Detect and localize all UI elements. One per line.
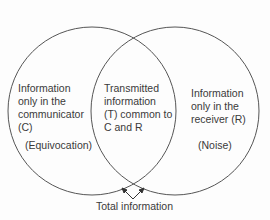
total-information-arrows	[122, 188, 144, 199]
communicator-only-label: Information only in the communicator (C)	[18, 82, 84, 134]
receiver-only-label: Information only in the receiver (R)	[191, 87, 246, 126]
center-line-3: (T) common to	[104, 108, 172, 121]
venn-diagram: Information only in the communicator (C)…	[0, 0, 270, 220]
equivocation-label: (Equivocation)	[25, 139, 92, 152]
left-line-4: (C)	[18, 121, 84, 134]
right-line-3: receiver (R)	[191, 113, 246, 126]
center-line-4: C and R	[104, 121, 172, 134]
left-line-3: communicator	[18, 108, 84, 121]
left-line-1: Information	[18, 82, 84, 95]
center-line-2: information	[104, 95, 172, 108]
noise-label: (Noise)	[198, 139, 232, 152]
right-line-1: Information	[191, 87, 246, 100]
left-line-2: only in the	[18, 95, 84, 108]
right-line-2: only in the	[191, 100, 246, 113]
transmitted-information-label: Transmitted information (T) common to C …	[104, 82, 172, 134]
center-line-1: Transmitted	[104, 82, 172, 95]
total-information-label: Total information	[96, 200, 173, 213]
